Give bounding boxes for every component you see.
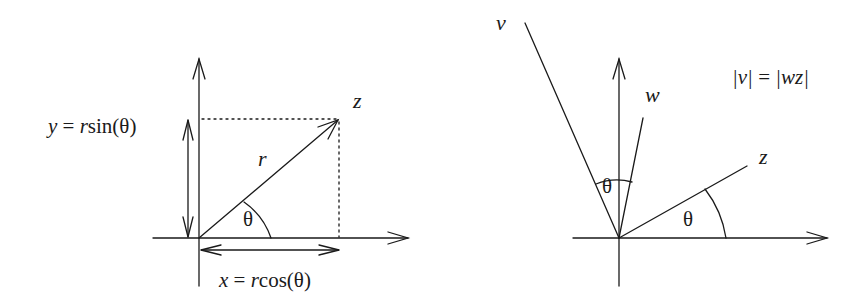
x-equals: = bbox=[228, 268, 250, 292]
y-equals: = bbox=[57, 114, 79, 138]
z-theta-arc bbox=[705, 189, 726, 238]
magnitude-identity-label: |v| = |wz| bbox=[732, 67, 809, 88]
identity-equals: = bbox=[753, 65, 775, 89]
right-diagram bbox=[525, 23, 827, 286]
vector-v-label: v bbox=[496, 12, 506, 34]
vector-v bbox=[525, 23, 619, 238]
y-var: y bbox=[48, 114, 57, 138]
x-r-var: r bbox=[251, 268, 259, 292]
left-diagram bbox=[153, 59, 408, 286]
vector-z-label: z bbox=[759, 146, 768, 168]
x-cos-fn: cos(θ) bbox=[259, 268, 311, 292]
diagram-canvas bbox=[0, 0, 867, 307]
y-r-var: r bbox=[80, 114, 88, 138]
left-theta-label: θ bbox=[243, 209, 253, 230]
identity-right: |wz| bbox=[775, 65, 809, 89]
vector-r bbox=[199, 120, 338, 238]
vw-theta-label: θ bbox=[602, 176, 612, 197]
radius-r-label: r bbox=[258, 148, 267, 170]
vector-w bbox=[619, 118, 643, 238]
x-equation-label: x = rcos(θ) bbox=[219, 270, 311, 291]
identity-left: |v| bbox=[732, 65, 753, 89]
vector-w-label: w bbox=[645, 84, 660, 106]
point-z-label: z bbox=[353, 90, 362, 112]
y-sin-fn: sin(θ) bbox=[88, 114, 137, 138]
y-equation-label: y = rsin(θ) bbox=[48, 116, 136, 137]
x-var: x bbox=[219, 268, 228, 292]
z-theta-label: θ bbox=[683, 209, 693, 230]
